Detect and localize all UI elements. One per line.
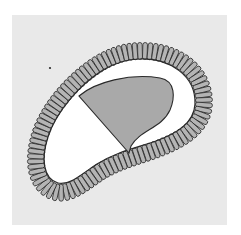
marker-dot <box>49 67 51 69</box>
diagram-canvas <box>0 0 241 235</box>
trophoblast-cell <box>132 43 138 60</box>
blastocyst-diagram <box>0 0 241 235</box>
trophoblast-cell <box>137 42 142 59</box>
trophoblast-cell <box>27 159 44 164</box>
